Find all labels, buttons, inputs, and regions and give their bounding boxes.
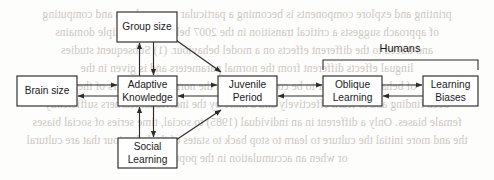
node-adaptive-knowledge-label-line2: Knowledge	[122, 92, 173, 103]
node-learning-biases-label: Learning	[431, 79, 471, 90]
node-juvenile-period-label-line2: Period	[233, 92, 263, 103]
node-social-learning: SocialLearning	[118, 138, 177, 168]
humans-bracket-line	[323, 60, 478, 70]
node-adaptive-knowledge-label: Adaptive	[128, 79, 168, 90]
node-brain-size: Brain size	[17, 76, 77, 106]
humans-bracket-label: Humans	[380, 42, 421, 54]
diagram-page: printing and explore components is becom…	[0, 0, 494, 180]
node-learning-biases: LearningBiases	[423, 76, 478, 106]
node-social-learning-label: Social	[134, 141, 162, 152]
flowchart-figure: Humans Group sizeBrain sizeAdaptiveKnowl…	[0, 0, 494, 180]
node-group-size: Group size	[117, 12, 177, 42]
node-layer: Group sizeBrain sizeAdaptiveKnowledgeJuv…	[17, 12, 478, 168]
node-juvenile-period: JuvenilePeriod	[218, 76, 277, 106]
node-brain-size-label: Brain size	[25, 85, 70, 96]
node-oblique-learning-label: Oblique	[335, 79, 370, 90]
node-oblique-learning-label-line2: Learning	[333, 92, 373, 103]
node-oblique-learning: ObliqueLearning	[323, 76, 382, 106]
social-to-juvenile-arrow	[173, 110, 221, 142]
node-social-learning-label-line2: Learning	[128, 154, 168, 165]
node-group-size-label: Group size	[122, 21, 172, 32]
node-juvenile-period-label: Juvenile	[229, 79, 267, 90]
node-learning-biases-label-line2: Biases	[435, 92, 466, 103]
group-to-juvenile-arrow	[173, 38, 221, 72]
node-adaptive-knowledge: AdaptiveKnowledge	[118, 76, 177, 106]
humans-bracket: Humans	[323, 42, 478, 70]
